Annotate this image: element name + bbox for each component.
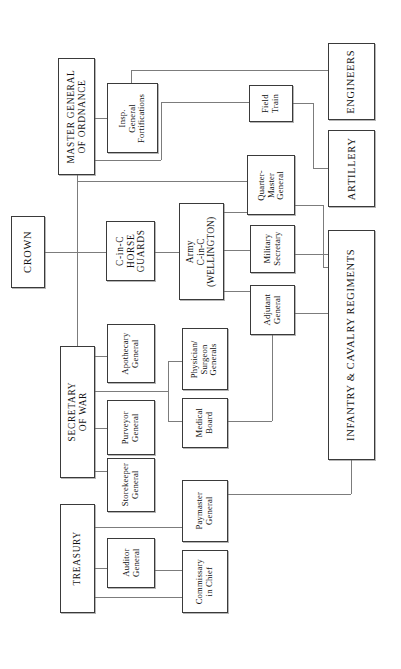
wire-fieldtrain-artillery-b	[313, 103, 314, 168]
node-treasury[interactable]: TREASURY	[60, 504, 95, 613]
wire-insp-engineers	[131, 70, 328, 71]
node-crown-label: CROWN	[22, 231, 34, 273]
wire-treasury-commissary	[95, 597, 182, 598]
node-field-train-label: Field Train	[261, 94, 280, 113]
node-secretary-of-war-label: SECRETARY OF WAR	[67, 382, 88, 442]
node-engineers[interactable]: ENGINEERS	[328, 43, 375, 120]
node-cinc-horse-guards[interactable]: C-in-C HORSE GUARDS	[106, 221, 155, 281]
node-cinc-horse-guards-label: C-in-C HORSE GUARDS	[115, 230, 147, 273]
wire-adjutant-medical-a	[272, 335, 273, 421]
node-purveyor-general-label: Purveyor General	[121, 411, 140, 444]
node-infantry-cavalry-regiments[interactable]: INFANTRY & CAVALRY REGIMENTS	[328, 230, 375, 460]
wire-horseguards-army	[155, 252, 179, 253]
node-army-cinc-wellington-label: Army C-in-C (WELLINGTON)	[186, 216, 218, 286]
wire-secwar-medical-b	[168, 361, 169, 421]
node-auditor-general[interactable]: Auditor General	[107, 538, 155, 588]
wire-qmg-left-a	[77, 181, 247, 182]
node-army-cinc-wellington[interactable]: Army C-in-C (WELLINGTON)	[179, 203, 224, 300]
wire-qmg-right-b	[323, 205, 324, 267]
wire-secwar-medical-a	[95, 391, 168, 392]
node-secretary-of-war[interactable]: SECRETARY OF WAR	[60, 346, 95, 478]
node-medical-board-label: Medical Board	[195, 408, 214, 438]
wire-army-adjutant	[224, 291, 250, 292]
wire-secwar-apothecary	[95, 356, 107, 357]
wire-crown-horseguards	[77, 252, 107, 253]
wire-paymaster-infantry-a	[228, 494, 351, 495]
wire-adjutant-infantry	[295, 313, 328, 314]
wire-secwar-physician	[168, 361, 182, 362]
node-engineers-label: ENGINEERS	[346, 49, 358, 113]
wire-secwar-purveyor	[95, 428, 107, 429]
node-auditor-general-label: Auditor General	[121, 549, 140, 578]
wire-mgo-insp	[95, 118, 107, 119]
wire-adjutant-medical-b	[228, 421, 272, 422]
wire-army-qmg	[224, 212, 247, 213]
node-physician-surgeon-generals-label: Physician/ Surgeon Generals	[191, 340, 220, 378]
wire-mgo-fieldtrain-c	[161, 102, 249, 103]
node-artillery-label: ARTILLERY	[346, 137, 358, 200]
node-quarter-master-general-label: Quarter- Master General	[257, 170, 286, 201]
node-apothecary-general-label: Apothecary General	[121, 332, 140, 374]
wire-secwar-medboard	[168, 421, 182, 422]
node-storekeeper-general-label: Storekeeper General	[121, 463, 140, 506]
node-quarter-master-general[interactable]: Quarter- Master General	[247, 155, 295, 215]
node-insp-general-fortifications-label: Insp. General Fortifications	[118, 93, 147, 142]
wire-crown-trunk-down	[77, 252, 78, 354]
node-field-train[interactable]: Field Train	[249, 85, 293, 122]
wire-auditor-commissary	[155, 570, 182, 571]
wire-treasury-paymaster	[95, 527, 182, 528]
wire-secwar-storekeeper	[95, 471, 107, 472]
node-military-secretary[interactable]: Military Secretary	[250, 225, 295, 273]
node-apothecary-general[interactable]: Apothecary General	[107, 324, 155, 383]
node-adjutant-general-label: Adjutant General	[263, 294, 282, 326]
wire-fieldtrain-artillery-c	[313, 168, 328, 169]
wire-fieldtrain-artillery-a	[293, 103, 313, 104]
node-master-general-of-ordnance[interactable]: MASTER GENERAL OF ORDNANCE	[58, 58, 95, 175]
node-crown[interactable]: CROWN	[11, 216, 45, 288]
node-medical-board[interactable]: Medical Board	[182, 398, 228, 448]
node-master-general-of-ordnance-label: MASTER GENERAL OF ORDNANCE	[66, 70, 87, 164]
node-physician-surgeon-generals[interactable]: Physician/ Surgeon Generals	[182, 328, 228, 390]
node-commissary-in-chief[interactable]: Commissary in Chief	[182, 550, 228, 613]
wire-mgo-fieldtrain-b	[161, 102, 162, 160]
org-chart-canvas: CROWN MASTER GENERAL OF ORDNANCE Insp. G…	[0, 0, 401, 669]
wire-qmg-right-a	[295, 205, 323, 206]
node-infantry-cavalry-regiments-label: INFANTRY & CAVALRY REGIMENTS	[346, 249, 358, 441]
node-purveyor-general[interactable]: Purveyor General	[107, 400, 155, 455]
wire-mgo-fieldtrain-a	[95, 160, 161, 161]
node-artillery[interactable]: ARTILLERY	[328, 130, 375, 207]
wire-army-milsec	[224, 250, 250, 251]
node-paymaster-general-label: Paymaster General	[195, 492, 214, 530]
wire-insp-up	[131, 70, 132, 83]
node-adjutant-general[interactable]: Adjutant General	[250, 285, 295, 335]
wire-paymaster-infantry-b	[351, 460, 352, 494]
node-paymaster-general[interactable]: Paymaster General	[182, 480, 228, 542]
node-military-secretary-label: Military Secretary	[263, 232, 282, 266]
node-commissary-in-chief-label: Commissary in Chief	[195, 559, 214, 604]
node-treasury-label: TREASURY	[72, 531, 83, 586]
wire-treasury-auditor	[95, 568, 107, 569]
node-insp-general-fortifications[interactable]: Insp. General Fortifications	[107, 83, 158, 153]
node-storekeeper-general[interactable]: Storekeeper General	[107, 458, 155, 512]
wire-milsec-infantry	[295, 254, 328, 255]
